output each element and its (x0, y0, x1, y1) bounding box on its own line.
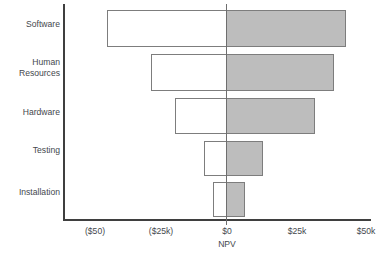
category-label-testing: Testing (33, 145, 60, 156)
category-label-human-resources: Human Resources (19, 57, 60, 78)
category-label-hardware: Hardware (23, 107, 60, 118)
bar-segment-low (213, 182, 226, 217)
bar-segment-low (204, 141, 226, 176)
category-label-installation: Installation (19, 187, 60, 198)
bar-segment-low (151, 54, 226, 91)
x-tick-label-neg50: ($50) (85, 226, 105, 236)
x-tick-label-pos50k: $50k (357, 226, 376, 236)
bar-row (63, 141, 371, 176)
x-tick-label-zero: $0 (222, 226, 232, 236)
bar-row (63, 98, 371, 134)
bar-row (63, 182, 371, 217)
bar-segment-high (227, 10, 347, 47)
bar-row (63, 10, 371, 47)
zero-reference-line (226, 4, 227, 225)
bar-segment-high (227, 182, 245, 217)
bar-segment-high (227, 54, 334, 91)
x-tick-label-neg25k: ($25k) (149, 226, 173, 236)
category-label-software: Software (26, 19, 60, 30)
bar-segment-low (175, 98, 227, 134)
bar-segment-high (227, 98, 315, 134)
plot-area (63, 4, 371, 220)
bar-segment-low (107, 10, 227, 47)
x-tick-label-pos25k: $25k (288, 226, 307, 236)
bar-row (63, 54, 371, 91)
x-axis-title: NPV (218, 239, 236, 249)
tornado-diagram-chart: Software Human Resources Hardware Testin… (0, 0, 387, 262)
bar-segment-high (227, 141, 263, 176)
